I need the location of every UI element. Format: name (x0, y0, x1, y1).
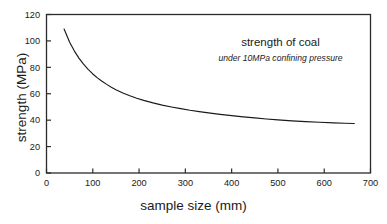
y-tick-label: 80 (30, 63, 40, 73)
x-tick-label: 600 (317, 178, 332, 188)
annotation-title: strength of coal (198, 36, 363, 48)
x-tick-label: 200 (131, 178, 146, 188)
x-tick-label: 0 (44, 178, 49, 188)
y-tick-label: 20 (30, 142, 40, 152)
x-tick-label: 300 (178, 178, 193, 188)
chart-plot-area: 020406080100120 0100200300400500600700 (0, 0, 387, 224)
x-tick-label: 500 (270, 178, 285, 188)
y-tick-label: 60 (30, 89, 40, 99)
x-tick-label: 400 (224, 178, 239, 188)
x-tick-label: 100 (85, 178, 100, 188)
y-tick-label: 0 (35, 168, 40, 178)
y-axis-title: strength (MPa) (14, 18, 29, 178)
x-tick-label: 700 (363, 178, 378, 188)
y-tick-label: 40 (30, 115, 40, 125)
chart-figure: 020406080100120 0100200300400500600700 s… (0, 0, 387, 224)
annotation-subtitle: under 10MPa confining pressure (198, 53, 363, 63)
x-axis-tick-labels: 0100200300400500600700 (44, 178, 378, 188)
x-axis-title: sample size (mm) (0, 198, 387, 213)
